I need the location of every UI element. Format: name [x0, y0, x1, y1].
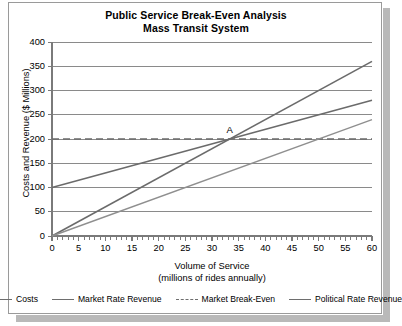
x-axis-title-line1: Volume of Service [175, 261, 250, 271]
x-tick-label: 15 [120, 244, 144, 253]
legend-item-costs[interactable]: Costs [0, 294, 38, 304]
x-tick-label: 25 [173, 244, 197, 253]
legend-swatch-icon [0, 299, 12, 300]
x-tick-label: 40 [253, 244, 277, 253]
chart-card: Public Service Break-Even Analysis Mass … [8, 2, 382, 314]
legend-swatch-icon [176, 299, 198, 300]
y-axis-title: Costs and Revenue ($ Millions) [21, 48, 31, 218]
y-tick-label: 200 [11, 135, 45, 144]
legend-swatch-icon [289, 299, 311, 300]
x-axis-title: Volume of Service (millions of rides ann… [52, 261, 372, 284]
x-axis-title-line2: (millions of rides annually) [52, 273, 372, 285]
annotation-point-a: A [227, 124, 233, 135]
series-line-political-rate-revenue [52, 120, 372, 236]
x-tick-label: 5 [67, 244, 91, 253]
card-shadow-right [383, 8, 390, 318]
x-tick-label: 60 [360, 244, 384, 253]
legend-swatch-icon [52, 299, 74, 300]
legend-label: Political Rate Revenue [315, 294, 402, 304]
x-tick-label: 30 [200, 244, 224, 253]
legend-item-market-rate-revenue[interactable]: Market Rate Revenue [52, 294, 162, 304]
x-tick-label: 50 [307, 244, 331, 253]
y-tick-label: 350 [11, 62, 45, 71]
y-tick-label: 150 [11, 159, 45, 168]
y-tick-label: 100 [11, 183, 45, 192]
legend-item-market-break-even[interactable]: Market Break-Even [176, 294, 276, 304]
series-line-market-rate-revenue [52, 61, 372, 236]
legend-item-political-rate-revenue[interactable]: Political Rate Revenue [289, 294, 402, 304]
x-tick-label: 0 [40, 244, 64, 253]
legend-label: Market Break-Even [202, 294, 276, 304]
legend-label: Market Rate Revenue [78, 294, 162, 304]
y-tick-label: 0 [11, 232, 45, 241]
chart-legend: CostsMarket Rate RevenueMarket Break-Eve… [9, 291, 383, 307]
plot-area-wrapper: Costs and Revenue ($ Millions) 050100150… [9, 3, 383, 315]
x-tick-label: 45 [280, 244, 304, 253]
x-tick-label: 20 [147, 244, 171, 253]
x-tick-label: 55 [333, 244, 357, 253]
series-line-costs [52, 100, 372, 187]
y-tick-label: 300 [11, 86, 45, 95]
card-shadow-bottom [16, 315, 390, 322]
legend-label: Costs [16, 294, 38, 304]
y-tick-label: 250 [11, 110, 45, 119]
y-tick-label: 50 [11, 207, 45, 216]
y-tick-label: 400 [11, 38, 45, 47]
x-tick-label: 10 [93, 244, 117, 253]
x-tick-label: 35 [227, 244, 251, 253]
